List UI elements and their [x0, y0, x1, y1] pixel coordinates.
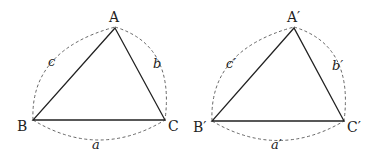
vertex-c-label: C — [168, 118, 179, 134]
side-a-label: a — [92, 137, 100, 152]
vertex-a-label: A — [108, 9, 120, 25]
side-a-prime-label: a′ — [271, 137, 282, 152]
vertex-b-prime-label: B′ — [193, 119, 206, 135]
side-c-label: c — [48, 54, 56, 69]
triangle-abc-edges — [33, 28, 165, 120]
side-c-prime-label: c′ — [226, 56, 236, 71]
triangle-abc: A B C a b c — [17, 9, 179, 152]
side-b-label: b — [153, 56, 161, 71]
triangle-abc-prime-edges — [212, 28, 344, 121]
vertex-c-prime-label: C′ — [347, 119, 361, 135]
vertex-b-label: B — [17, 118, 27, 134]
triangle-abc-prime: A′ B′ C′ a′ b′ c′ — [193, 9, 361, 152]
vertex-a-prime-label: A′ — [286, 9, 300, 25]
side-b-prime-label: b′ — [332, 58, 343, 73]
congruent-triangles-diagram: A B C a b c A′ B′ C′ a′ b′ c′ — [0, 0, 379, 155]
